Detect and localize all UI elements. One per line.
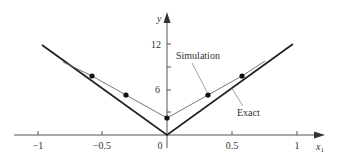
chart: −1 −0.5 0 0.5 1 6 12 y x1 Simulation Exa…: [0, 0, 338, 158]
data-point: [123, 92, 128, 97]
x-tick-label: 1: [295, 140, 300, 151]
data-point: [164, 115, 169, 120]
x-tick-label: −1: [33, 140, 44, 151]
exact-leader: [231, 87, 243, 106]
y-tick-label: 12: [151, 39, 161, 50]
x-axis-arrow-icon: [314, 132, 325, 139]
y-ticks: [167, 44, 171, 112]
exact-annotation: Exact: [237, 107, 260, 118]
simulation-leader: [192, 63, 207, 92]
x-tick-label: 0.5: [226, 140, 239, 151]
data-point: [239, 73, 244, 78]
data-point: [205, 92, 210, 97]
y-tick-label: 6: [155, 84, 160, 95]
x-axis-label: x1: [315, 141, 324, 154]
data-point: [89, 73, 94, 78]
simulation-line: [63, 61, 265, 118]
chart-canvas: −1 −0.5 0 0.5 1 6 12 y x1 Simulation Exa…: [0, 0, 338, 158]
x-tick-label: 0: [158, 140, 163, 151]
x-tick-label: −0.5: [93, 140, 111, 151]
y-axis-arrow-icon: [164, 12, 171, 23]
y-axis-label: y: [156, 13, 162, 24]
simulation-annotation: Simulation: [176, 50, 220, 61]
